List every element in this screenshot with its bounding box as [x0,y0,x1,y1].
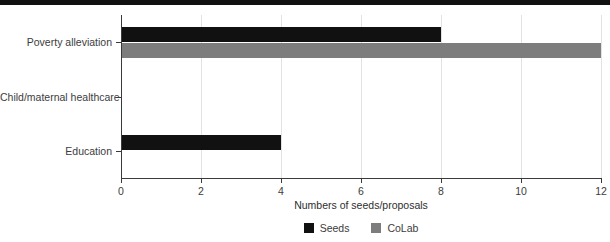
gridline-x-10 [521,15,522,178]
x-tick-label-4: 4 [261,185,301,197]
x-tick-label-8: 8 [421,185,461,197]
x-tick-mark-8 [441,178,442,183]
y-axis-line [121,15,122,178]
bar-seeds-2 [121,135,281,150]
x-tick-label-6: 6 [341,185,381,197]
plot-area [121,15,601,178]
x-tick-label-0: 0 [101,185,141,197]
bar-seeds-0 [121,27,441,42]
x-tick-label-12: 12 [581,185,610,197]
legend-swatch-icon-colab [371,223,381,233]
legend-label: Seeds [320,222,350,234]
x-tick-mark-4 [281,178,282,183]
y-tick-mark-0 [116,42,121,43]
x-axis-title: Numbers of seeds/proposals [121,199,601,212]
x-tick-mark-10 [521,178,522,183]
y-tick-label-2: Education [0,145,112,157]
legend-item-seeds[interactable]: Seeds [304,222,350,234]
legend-label: CoLab [387,222,418,234]
legend-item-colab[interactable]: CoLab [371,222,418,234]
y-tick-mark-2 [116,151,121,152]
x-tick-label-10: 10 [501,185,541,197]
x-tick-label-2: 2 [181,185,221,197]
chart-legend: SeedsCoLab [121,222,601,234]
gridline-x-12 [601,15,602,178]
bar-colab-0 [121,43,601,58]
gridline-x-8 [441,15,442,178]
y-tick-label-1: Child/maternal healthcare [0,91,112,103]
x-tick-mark-0 [121,178,122,183]
y-tick-label-0: Poverty alleviation [0,36,112,48]
bar-chart: Poverty alleviationChild/maternal health… [0,0,610,242]
legend-swatch-icon-seeds [304,223,314,233]
x-tick-mark-2 [201,178,202,183]
x-tick-mark-12 [601,178,602,183]
x-tick-mark-6 [361,178,362,183]
top-black-strip [0,0,610,5]
